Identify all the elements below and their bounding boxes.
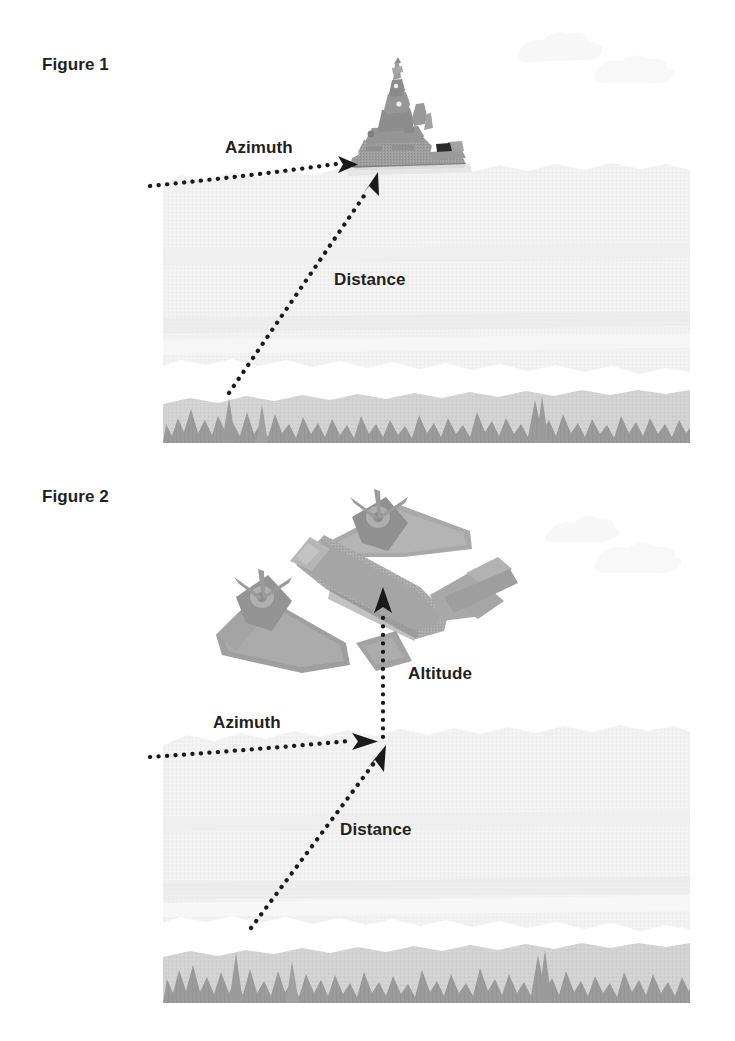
ground-band-2 — [163, 943, 690, 1003]
cloud-group-2 — [545, 516, 681, 573]
altitude-label-figure-2: Altitude — [408, 664, 472, 684]
diagram-page: Figure 1 — [0, 0, 735, 1041]
azimuth-label-figure-1: Azimuth — [225, 138, 293, 158]
sky-band-2 — [163, 725, 690, 931]
cloud-group-1 — [517, 32, 674, 83]
figure-2-scene — [0, 465, 735, 1041]
azimuth-label-figure-2: Azimuth — [213, 713, 281, 733]
distance-label-figure-2: Distance — [340, 820, 412, 840]
ground-band-1 — [163, 390, 690, 443]
distance-label-figure-1: Distance — [334, 270, 406, 290]
battleship-icon — [346, 57, 472, 176]
figure-1-scene — [0, 0, 735, 465]
sky-band-1 — [163, 163, 690, 374]
aircraft-icon — [216, 489, 518, 673]
